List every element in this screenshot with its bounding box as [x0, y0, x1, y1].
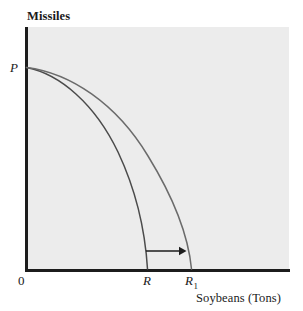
y-intercept-label-p: P	[10, 61, 18, 74]
curve-layer	[0, 0, 303, 311]
x-intercept-label-r1: R1	[185, 274, 198, 291]
y-axis-title: Missiles	[27, 10, 70, 23]
ppf-curve-original	[27, 68, 148, 270]
x-axis-title: Soybeans (Tons)	[196, 292, 281, 305]
x-intercept-label-r1-base: R	[185, 273, 193, 288]
origin-label: 0	[18, 274, 25, 287]
x-intercept-label-r1-subscript: 1	[193, 281, 198, 291]
ppf-figure: Missiles Soybeans (Tons) P 0 R R1	[0, 0, 303, 311]
outward-shift-arrow	[146, 247, 187, 256]
x-intercept-label-r: R	[143, 274, 151, 287]
ppf-curve-shifted	[27, 68, 192, 270]
